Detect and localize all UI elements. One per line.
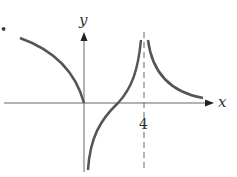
graph: • x y 4	[0, 0, 237, 177]
y-axis-arrow-icon	[81, 32, 88, 41]
tick-label-4: 4	[139, 116, 148, 132]
y-axis-label: y	[78, 11, 88, 29]
curve-left-branch	[20, 38, 84, 103]
curve-right-branch	[148, 40, 203, 98]
x-axis-label: x	[218, 93, 227, 111]
x-axis-arrow-icon	[205, 100, 214, 107]
curve-middle-branch	[88, 40, 141, 170]
bullet-marker: •	[0, 23, 7, 37]
